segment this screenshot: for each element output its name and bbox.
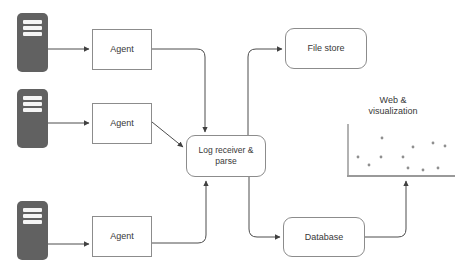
agent3-label: Agent <box>110 231 134 242</box>
web-visualization-label-line2: visualization <box>368 106 417 116</box>
scatter-plot <box>347 124 455 176</box>
scatter-dot <box>432 142 435 145</box>
database-node: Database <box>283 217 365 257</box>
server-icon <box>17 89 48 148</box>
log-receiver-label: Log receiver & parse <box>187 145 265 167</box>
agent2-label: Agent <box>110 118 134 129</box>
database-label: Database <box>305 232 344 243</box>
server-icon <box>17 13 48 72</box>
server-stripe <box>23 96 42 100</box>
agent1-label: Agent <box>110 44 134 55</box>
server-stripe <box>23 102 42 106</box>
log-receiver-node: Log receiver & parse <box>186 135 266 177</box>
server-stripe <box>23 108 42 112</box>
server-stripe <box>23 214 42 218</box>
server-stripe <box>23 20 42 24</box>
server-stripe <box>23 32 42 36</box>
scatter-dots <box>357 137 447 172</box>
architecture-diagram: Agent Agent Agent File store Log receive… <box>0 0 468 274</box>
scatter-dot <box>407 167 410 170</box>
scatter-dot <box>368 164 371 167</box>
server-icon <box>17 201 48 260</box>
agent3-node: Agent <box>92 216 152 257</box>
server-stripe <box>23 26 42 30</box>
scatter-dot <box>357 156 360 159</box>
agent2-node: Agent <box>92 103 152 144</box>
agent1-node: Agent <box>92 29 152 70</box>
edge-logreceiver-filestore <box>248 49 282 135</box>
scatter-dot <box>381 137 384 140</box>
edge-database-plot <box>365 181 406 237</box>
server-stripe <box>23 208 42 212</box>
server-stripe <box>23 220 42 224</box>
scatter-dot <box>412 146 415 149</box>
edge-agent2-logreceiver <box>152 122 183 147</box>
edge-logreceiver-database <box>249 177 280 237</box>
file-store-node: File store <box>285 28 367 69</box>
scatter-dot <box>422 169 425 172</box>
scatter-dot <box>402 156 405 159</box>
scatter-dot <box>380 156 383 159</box>
scatter-dot <box>444 145 447 148</box>
file-store-label: File store <box>307 43 344 54</box>
web-visualization-label-line1: Web & <box>380 95 407 105</box>
web-visualization-label: Web & visualization <box>352 95 434 117</box>
edge-agent1-logreceiver <box>152 49 205 132</box>
scatter-dot <box>437 167 440 170</box>
edge-agent3-logreceiver <box>152 181 206 243</box>
